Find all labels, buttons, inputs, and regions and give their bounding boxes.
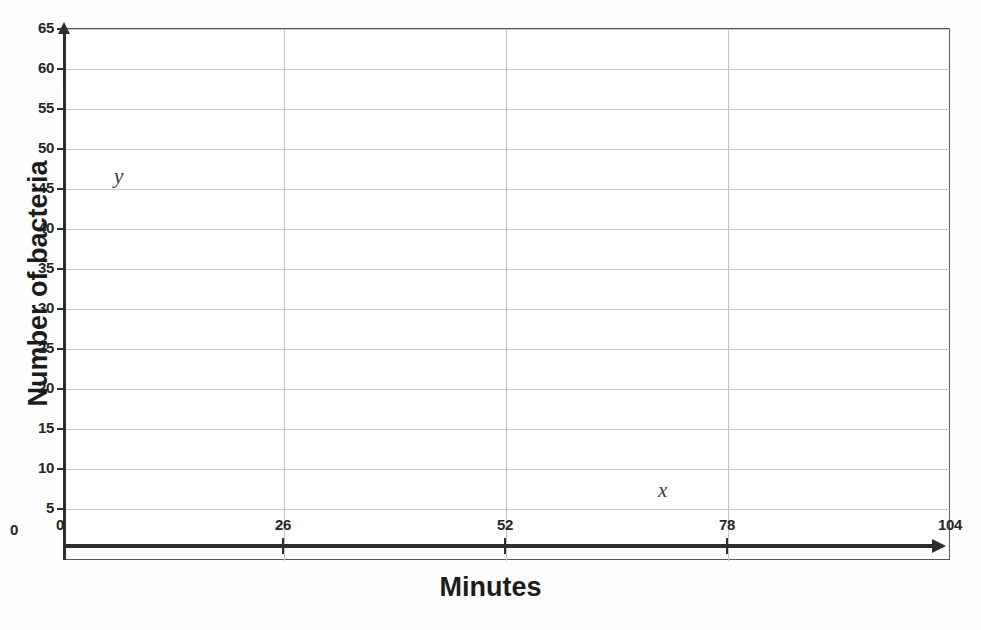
y-tick-30 — [57, 308, 65, 310]
x-axis-arrow-icon — [932, 539, 946, 553]
gridline-horizontal-30 — [66, 309, 951, 310]
x-axis-title: Minutes — [0, 572, 981, 603]
gridline-horizontal-55 — [66, 109, 951, 110]
x-tick-78 — [726, 538, 728, 554]
gridline-horizontal-15 — [66, 429, 951, 430]
x-tick-26 — [282, 538, 284, 554]
gridline-horizontal-25 — [66, 349, 951, 350]
y-tick-label-65: 65 — [0, 19, 54, 36]
y-tick-10 — [57, 468, 65, 470]
gridline-horizontal-5 — [66, 509, 951, 510]
gridline-horizontal-60 — [66, 69, 951, 70]
gridline-horizontal-65 — [66, 29, 951, 30]
x-variable-label: x — [658, 478, 667, 503]
y-tick-60 — [57, 68, 65, 70]
x-tick-label-52: 52 — [485, 516, 525, 533]
gridline-horizontal-10 — [66, 469, 951, 470]
gridline-vertical-78 — [728, 29, 729, 561]
x-tick-label-78: 78 — [707, 516, 747, 533]
plot-area — [65, 28, 950, 560]
y-tick-20 — [57, 388, 65, 390]
x-tick-label-0: 0 — [56, 516, 86, 533]
x-axis-line — [63, 544, 943, 548]
y-tick-25 — [57, 348, 65, 350]
y-tick-label-10: 10 — [0, 459, 54, 476]
gridline-horizontal-35 — [66, 269, 951, 270]
gridline-vertical-52 — [506, 29, 507, 561]
y-tick-15 — [57, 428, 65, 430]
y-tick-label-60: 60 — [0, 59, 54, 76]
x-tick-52 — [504, 538, 506, 554]
gridline-vertical-26 — [284, 29, 285, 561]
graph-page: 65 60 55 50 45 40 35 30 25 20 15 10 5 0 … — [0, 0, 981, 630]
y-tick-40 — [57, 228, 65, 230]
y-tick-5 — [57, 508, 65, 510]
y-tick-45 — [57, 188, 65, 190]
gridline-horizontal-20 — [66, 389, 951, 390]
y-tick-50 — [57, 148, 65, 150]
y-tick-55 — [57, 108, 65, 110]
gridline-horizontal-40 — [66, 229, 951, 230]
y-variable-label: y — [114, 164, 123, 189]
x-tick-label-26: 26 — [263, 516, 303, 533]
y-tick-65 — [57, 28, 65, 30]
y-tick-35 — [57, 268, 65, 270]
y-tick-label-5: 5 — [0, 499, 54, 516]
gridline-horizontal-50 — [66, 149, 951, 150]
y-axis-title: Number of bacteria — [23, 114, 54, 454]
gridline-horizontal-45 — [66, 189, 951, 190]
x-tick-label-104: 104 — [928, 516, 972, 533]
